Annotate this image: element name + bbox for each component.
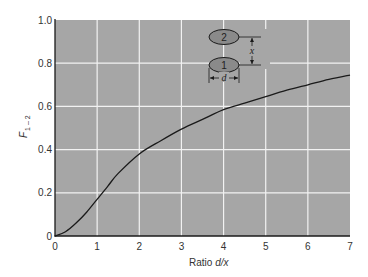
x-tick-labels: 01234567 xyxy=(52,241,353,252)
x-tick-label: 2 xyxy=(137,241,143,252)
plot-area xyxy=(55,20,350,236)
y-axis-label: F1 – 2 xyxy=(18,115,31,138)
disk-2-label: 2 xyxy=(221,32,227,43)
y-axis-label-main: F xyxy=(18,131,29,138)
y-tick-label: 0.4 xyxy=(38,144,52,155)
x-tick-label: 5 xyxy=(263,241,269,252)
y-tick-labels: 00.20.40.60.81.0 xyxy=(38,15,52,242)
y-tick-label: 0.2 xyxy=(38,187,52,198)
y-tick-label: 0.6 xyxy=(38,101,52,112)
x-tick-label: 1 xyxy=(94,241,100,252)
chart: 01234567 00.20.40.60.81.0 Ratio d/x F1 –… xyxy=(0,0,368,277)
x-tick-label: 4 xyxy=(221,241,227,252)
x-axis-label-prefix: Ratio xyxy=(189,257,215,268)
x-axis-label: Ratio d/x xyxy=(189,257,229,268)
svg-text:F1 – 2: F1 – 2 xyxy=(18,115,31,138)
x-tick-label: 7 xyxy=(347,241,353,252)
y-tick-label: 1.0 xyxy=(38,15,52,26)
y-axis-label-subscript: 1 – 2 xyxy=(24,115,31,131)
separation-label: x xyxy=(249,45,255,56)
disk-1-label: 1 xyxy=(221,60,227,71)
y-tick-label: 0 xyxy=(46,231,52,242)
x-tick-label: 6 xyxy=(305,241,311,252)
x-axis-label-variable: d/x xyxy=(215,257,229,268)
x-tick-label: 0 xyxy=(52,241,58,252)
y-tick-label: 0.8 xyxy=(38,58,52,69)
x-tick-label: 3 xyxy=(179,241,185,252)
